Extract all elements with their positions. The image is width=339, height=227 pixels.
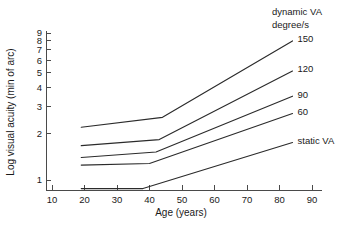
series-labels: 1501209060static VA bbox=[298, 33, 335, 146]
series-label-90: 90 bbox=[298, 89, 309, 100]
legend-heading-group: dynamic VA degree/s bbox=[272, 6, 323, 30]
axes-group bbox=[46, 31, 322, 190]
x-tick-label: 40 bbox=[144, 194, 155, 205]
chart-svg: 123456789 102030405060708090 1501209060s… bbox=[0, 0, 339, 227]
y-axis-title: Log visual acuity (min of arc) bbox=[5, 48, 16, 175]
series-line-90 bbox=[81, 96, 292, 157]
y-axis-ticks: 123456789 bbox=[37, 27, 51, 185]
series-line-120 bbox=[81, 71, 292, 146]
series-label-120: 120 bbox=[298, 63, 314, 74]
x-tick-label: 60 bbox=[209, 194, 220, 205]
y-tick-label: 1 bbox=[37, 174, 42, 185]
series-lines bbox=[81, 41, 292, 189]
series-line-static-va bbox=[81, 143, 292, 189]
series-label-150: 150 bbox=[298, 33, 314, 44]
series-line-150 bbox=[81, 41, 292, 127]
x-tick-label: 30 bbox=[112, 194, 123, 205]
x-axis-title: Age (years) bbox=[155, 207, 207, 218]
y-tick-label: 3 bbox=[37, 101, 42, 112]
series-label-static-va: static VA bbox=[298, 135, 335, 146]
x-tick-label: 70 bbox=[242, 194, 253, 205]
legend-heading-line-1: dynamic VA bbox=[272, 6, 323, 17]
chart-figure: 123456789 102030405060708090 1501209060s… bbox=[0, 0, 339, 227]
x-tick-label: 50 bbox=[177, 194, 188, 205]
y-tick-label: 6 bbox=[37, 55, 42, 66]
y-tick-label: 9 bbox=[37, 27, 42, 38]
y-tick-label: 4 bbox=[37, 82, 42, 93]
y-tick-label: 2 bbox=[37, 128, 42, 139]
x-tick-label: 90 bbox=[307, 194, 318, 205]
series-label-60: 60 bbox=[298, 106, 309, 117]
legend-heading-line-2: degree/s bbox=[272, 19, 309, 30]
x-tick-label: 80 bbox=[274, 194, 285, 205]
x-tick-label: 20 bbox=[79, 194, 90, 205]
y-tick-label: 5 bbox=[37, 67, 42, 78]
x-tick-label: 10 bbox=[47, 194, 58, 205]
